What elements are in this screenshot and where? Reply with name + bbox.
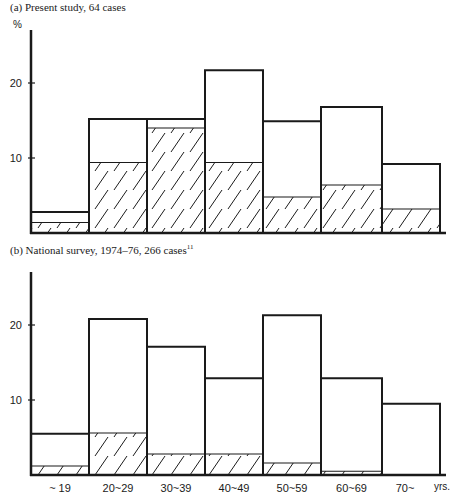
bar-3039 — [147, 119, 205, 233]
hatched-segment — [263, 463, 321, 475]
x-tick-label: 30~39 — [161, 482, 192, 494]
chart-a: 1020% — [10, 19, 446, 234]
bar-4049 — [205, 378, 263, 475]
x-tick-label: 70~ — [396, 482, 415, 494]
bar-70 — [382, 404, 440, 475]
bar-5059 — [263, 315, 321, 475]
x-tick-label: 40~49 — [219, 482, 250, 494]
histogram-figure: 1020% 1020 ~ 1920~2930~3940~4950~5960~69… — [0, 0, 458, 498]
bar-5059 — [263, 121, 321, 233]
total-outline — [263, 315, 321, 475]
hatched-segment — [31, 223, 89, 234]
hatched-segment — [321, 185, 382, 233]
hatched-segment — [205, 163, 263, 234]
bar-4049 — [205, 70, 263, 233]
bar-6069 — [321, 107, 382, 233]
y-tick-label: 10 — [10, 152, 22, 164]
x-axis-labels: ~ 1920~2930~3940~4950~5960~6970~yrs. — [49, 481, 450, 494]
bar-2029 — [89, 119, 147, 233]
hatched-segment — [147, 128, 205, 233]
total-outline — [321, 378, 382, 475]
hatched-segment — [89, 433, 147, 475]
bar-70 — [382, 164, 440, 233]
percent-unit-label: % — [13, 19, 22, 30]
x-tick-label: ~ 19 — [49, 482, 71, 494]
y-tick-label: 20 — [10, 319, 22, 331]
bar-6069 — [321, 378, 382, 475]
years-unit-label: yrs. — [434, 481, 450, 492]
hatched-segment — [31, 466, 89, 475]
total-outline — [382, 404, 440, 475]
bar-3039 — [147, 347, 205, 475]
y-tick-label: 20 — [10, 77, 22, 89]
bar-19 — [31, 434, 89, 475]
x-tick-label: 20~29 — [103, 482, 134, 494]
y-tick-label: 10 — [10, 394, 22, 406]
hatched-segment — [205, 454, 263, 475]
hatched-segment — [147, 454, 205, 475]
hatched-segment — [89, 163, 147, 234]
hatched-segment — [263, 197, 321, 233]
hatched-segment — [382, 209, 440, 233]
bar-19 — [31, 212, 89, 233]
x-tick-label: 60~69 — [336, 482, 367, 494]
x-tick-label: 50~59 — [277, 482, 308, 494]
bar-2029 — [89, 319, 147, 475]
chart-b: 1020 — [10, 272, 446, 476]
